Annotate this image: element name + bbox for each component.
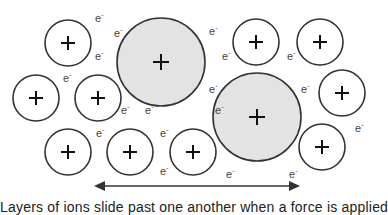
small-ion xyxy=(13,75,59,121)
large-ion xyxy=(117,18,205,106)
arrow-head-left-icon xyxy=(94,181,105,191)
small-ion xyxy=(299,124,345,170)
electron-label: e- xyxy=(95,11,104,24)
small-ion xyxy=(107,129,153,175)
electron-label: e- xyxy=(222,49,231,62)
caption: Layers of ions slide past one another wh… xyxy=(0,199,380,215)
electron-label: e- xyxy=(160,164,169,177)
small-ion xyxy=(233,19,279,65)
arrow-head-right-icon xyxy=(289,181,300,191)
large-ion xyxy=(213,73,301,161)
electron-label: e- xyxy=(209,82,218,95)
electron-label: e- xyxy=(145,103,154,116)
electron-label: e- xyxy=(114,26,123,39)
electron-label: e- xyxy=(95,49,104,62)
electron-label: e- xyxy=(209,24,218,37)
electron-label: e- xyxy=(121,103,130,116)
electron-label: e- xyxy=(289,167,298,180)
small-ion xyxy=(45,129,91,175)
small-ion xyxy=(75,75,121,121)
double-headed-arrow xyxy=(94,181,300,191)
small-ion xyxy=(45,20,91,66)
electron-label: e- xyxy=(355,121,364,134)
electron-label: e- xyxy=(96,126,105,139)
electron-label: e- xyxy=(287,49,296,62)
electron-label: e- xyxy=(226,167,235,180)
electron-label: e- xyxy=(160,126,169,139)
small-ion xyxy=(170,129,216,175)
small-ion xyxy=(297,19,343,65)
electron-label: e- xyxy=(63,71,72,84)
electron-label: e- xyxy=(301,82,310,95)
small-ion xyxy=(319,70,365,116)
